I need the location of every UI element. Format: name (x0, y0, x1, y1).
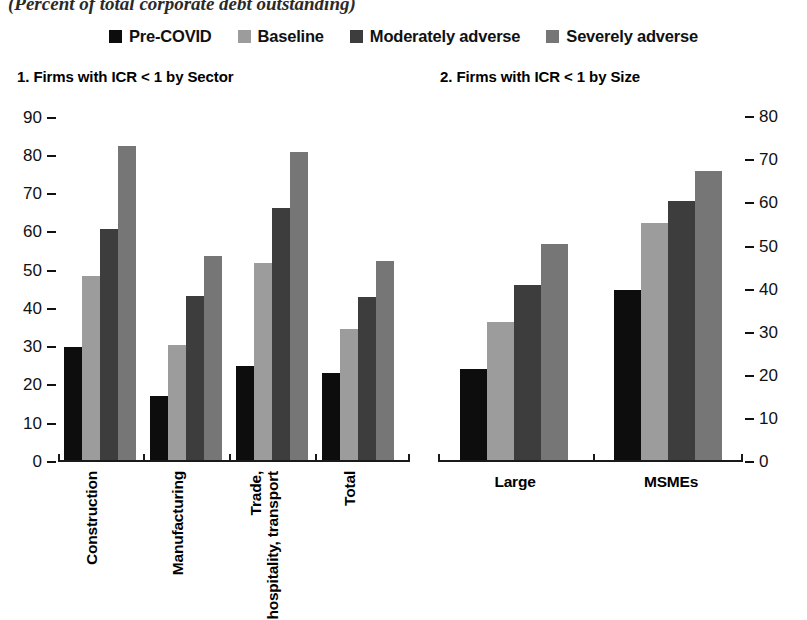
y-axis-tick: 10 (745, 412, 781, 426)
y-axis-tick-mark (47, 193, 56, 195)
y-axis-tick-mark (47, 461, 56, 463)
y-axis-tick: 40 (20, 302, 56, 316)
x-axis-group-tick (315, 454, 317, 462)
y-axis-tick-mark (47, 231, 56, 233)
bar-group (614, 110, 722, 462)
bar (150, 396, 168, 462)
y-axis-tick-label: 80 (20, 149, 42, 163)
bar-group (460, 110, 568, 462)
y-axis-tick: 80 (20, 149, 56, 163)
y-axis-tick: 60 (745, 196, 781, 210)
panel-2-baseline (438, 460, 743, 462)
y-axis-tick-label: 60 (759, 196, 781, 210)
x-axis-category-label: Total (342, 471, 359, 506)
bar (272, 208, 290, 462)
y-axis-tick-mark (745, 116, 754, 118)
bar (290, 152, 308, 462)
y-axis-tick: 90 (20, 111, 56, 125)
legend-swatch-icon (350, 30, 363, 43)
bar (376, 261, 394, 462)
y-axis-tick-label: 40 (759, 283, 781, 297)
y-axis-tick: 30 (20, 340, 56, 354)
panel-2-axis-endcap-right (741, 454, 743, 462)
panel-1-title: 1. Firms with ICR < 1 by Sector (17, 68, 234, 85)
y-axis-tick: 50 (20, 264, 56, 278)
y-axis-tick-label: 30 (759, 326, 781, 340)
x-axis-group-tick (229, 454, 231, 462)
legend-swatch-icon (109, 30, 122, 43)
x-axis-category-label: Trade, (248, 471, 265, 515)
legend-label: Moderately adverse (370, 27, 520, 46)
y-axis-tick-label: 50 (20, 264, 42, 278)
legend: Pre-COVIDBaselineModerately adverseSever… (0, 27, 807, 46)
bar (340, 329, 358, 462)
panel-sector: 0102030405060708090 ConstructionManufact… (10, 110, 420, 465)
x-axis-group-tick (143, 454, 145, 462)
y-axis-tick: 60 (20, 225, 56, 239)
y-axis-tick: 20 (745, 369, 781, 383)
y-axis-tick-mark (745, 159, 754, 161)
legend-item: Moderately adverse (350, 27, 520, 46)
bar-group (236, 110, 308, 462)
legend-item: Baseline (238, 27, 324, 46)
panel-1-plot-area (58, 110, 410, 462)
bar (118, 146, 136, 462)
y-axis-tick: 40 (745, 283, 781, 297)
bar (100, 229, 118, 462)
bar (460, 369, 487, 462)
y-axis-tick-mark (47, 308, 56, 310)
y-axis-tick-mark (745, 375, 754, 377)
bar (487, 322, 514, 462)
panel-1-axis-endcap-right (408, 454, 410, 462)
y-axis-tick-label: 10 (759, 412, 781, 426)
y-axis-tick: 70 (20, 187, 56, 201)
x-axis-group-tick (593, 454, 595, 462)
y-axis-tick: 30 (745, 326, 781, 340)
y-axis-tick-label: 70 (20, 187, 42, 201)
panel-1-axis-endcap-left (58, 454, 60, 462)
y-axis-tick-mark (47, 270, 56, 272)
y-axis-tick-mark (745, 332, 754, 334)
legend-label: Severely adverse (566, 27, 698, 46)
y-axis-tick-mark (745, 246, 754, 248)
y-axis-tick: 80 (745, 110, 781, 124)
panel-2-bars (438, 110, 743, 462)
legend-item: Pre-COVID (109, 27, 212, 46)
bar (668, 201, 695, 462)
bar-group (322, 110, 394, 462)
y-axis-tick: 20 (20, 378, 56, 392)
y-axis-tick-mark (745, 202, 754, 204)
panel-2-x-labels: LargeMSMEs (430, 465, 797, 595)
bar (541, 244, 568, 462)
bar-group (150, 110, 222, 462)
panel-1-baseline (58, 460, 410, 462)
panel-2-plot-area (438, 110, 743, 462)
y-axis-tick: 70 (745, 153, 781, 167)
bar (322, 373, 340, 462)
x-axis-category-label: Manufacturing (170, 471, 187, 575)
x-axis-category-label: Large (494, 473, 535, 491)
y-axis-tick-label: 40 (20, 302, 42, 316)
legend-swatch-icon (546, 30, 559, 43)
y-axis-tick-label: 70 (759, 153, 781, 167)
y-axis-tick-mark (47, 346, 56, 348)
y-axis-tick-mark (47, 155, 56, 157)
bar (64, 347, 82, 462)
x-axis-category-label: MSMEs (644, 473, 698, 491)
panel-size: 01020304050607080 LargeMSMEs (430, 110, 797, 465)
bar (695, 171, 722, 462)
panel-1-x-labels: ConstructionManufacturinghospitality, tr… (10, 465, 420, 595)
panel-2-title: 2. Firms with ICR < 1 by Size (440, 68, 640, 85)
bar (168, 345, 186, 462)
legend-swatch-icon (238, 30, 251, 43)
y-axis-tick-mark (47, 117, 56, 119)
bar (236, 366, 254, 462)
y-axis-tick-label: 60 (20, 225, 42, 239)
y-axis-tick: 10 (20, 417, 56, 431)
bar (358, 297, 376, 462)
figure-suptitle: (Percent of total corporate debt outstan… (8, 0, 356, 15)
y-axis-tick-mark (745, 461, 754, 463)
panel-1-y-axis: 0102030405060708090 (10, 110, 56, 462)
panel-2-axis-endcap-left (438, 454, 440, 462)
